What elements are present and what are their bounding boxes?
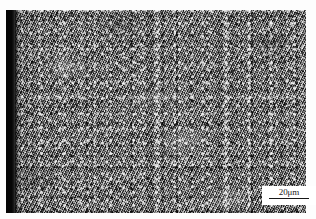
scale-bar: 20μm (262, 186, 316, 205)
scale-bar-rule (269, 198, 309, 199)
microstructure-blotch-layer (6, 10, 306, 213)
scale-bar-label: 20μm (279, 187, 299, 197)
specimen-edge-band-feather (15, 10, 22, 213)
micrograph-figure: 20μm (0, 0, 316, 219)
microstructure-grain-texture (6, 10, 306, 213)
microstructure-speckle-layer (6, 10, 306, 213)
micrograph-image (6, 10, 306, 213)
microstructure-vignette-layer (6, 10, 306, 213)
